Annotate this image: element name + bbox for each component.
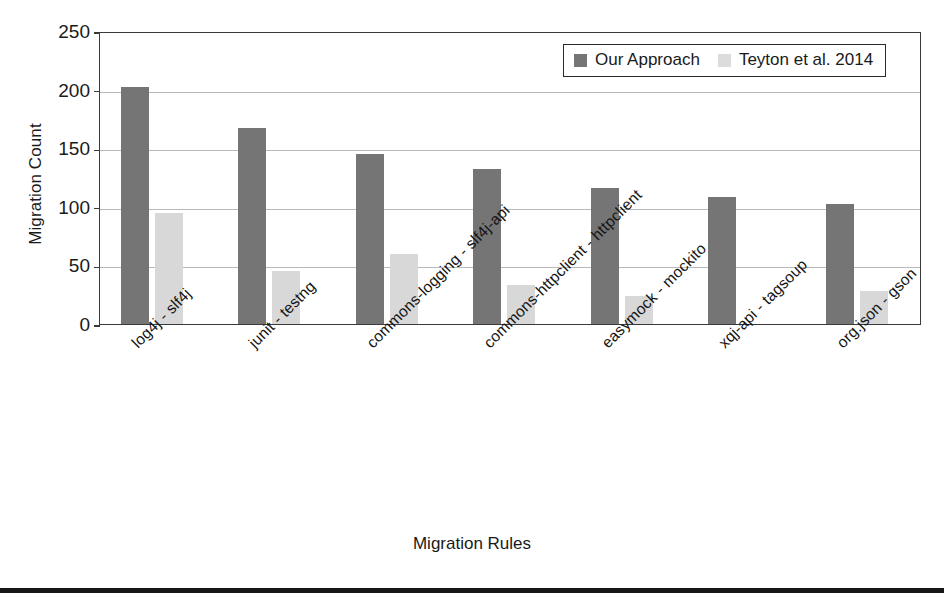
legend-swatch-our-approach-icon [574, 54, 587, 67]
legend-label-our-approach: Our Approach [595, 50, 700, 70]
bar-our-approach-2 [356, 154, 384, 324]
y-axis-tick-mark [94, 32, 100, 33]
legend-entry-teyton: Teyton et al. 2014 [718, 50, 873, 70]
gridline [100, 150, 920, 151]
bottom-rule-divider [0, 588, 944, 593]
y-axis-tick-label: 100 [44, 198, 90, 217]
bar-our-approach-6 [826, 204, 854, 324]
bar-our-approach-5 [708, 197, 736, 324]
bar-our-approach-0 [121, 87, 149, 324]
legend-entry-our-approach: Our Approach [574, 50, 700, 70]
y-axis-tick-mark [94, 208, 100, 209]
y-axis-tick-mark [94, 150, 100, 151]
y-axis-tick-mark [94, 267, 100, 268]
x-axis-title: Migration Rules [0, 534, 944, 554]
bar-our-approach-1 [238, 128, 266, 324]
y-axis-tick-label: 250 [44, 22, 90, 41]
migration-count-bar-chart: Migration Count 050100150200250 Our Appr… [0, 0, 944, 608]
legend-label-teyton: Teyton et al. 2014 [739, 50, 873, 70]
chart-legend: Our Approach Teyton et al. 2014 [563, 44, 886, 77]
y-axis-tick-labels: 050100150200250 [42, 0, 90, 608]
y-axis-tick-label: 50 [44, 256, 90, 275]
y-axis-tick-label: 0 [44, 315, 90, 334]
y-axis-tick-mark [94, 325, 100, 326]
y-axis-tick-label: 200 [44, 81, 90, 100]
legend-swatch-teyton-icon [718, 54, 731, 67]
gridline [100, 92, 920, 93]
y-axis-tick-label: 150 [44, 139, 90, 158]
y-axis-tick-mark [94, 91, 100, 92]
